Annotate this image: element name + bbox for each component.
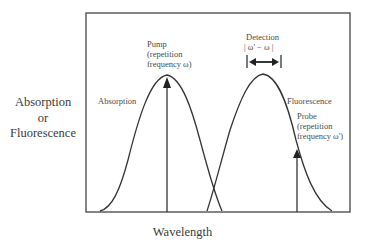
- detection-arrow-right-icon: [272, 58, 279, 66]
- absorption-label: Absorption: [98, 97, 136, 107]
- x-axis-label: Wavelength: [0, 225, 365, 239]
- fluorescence-label: Fluorescence: [287, 97, 332, 107]
- y-axis-label-line-2: or: [4, 111, 82, 127]
- probe-annotation: Probe (repetition frequency ω'): [297, 112, 343, 141]
- pump-line-3: frequency ω): [147, 60, 192, 70]
- y-axis-label-line-1: Absorption: [4, 95, 82, 111]
- fluorescence-curve: [207, 74, 332, 211]
- probe-line-3: frequency ω'): [297, 132, 343, 142]
- detection-formula: | ω' − ω |: [244, 43, 273, 53]
- pump-annotation: Pump (repetition frequency ω): [147, 40, 192, 69]
- y-axis-label: Absorption or Fluorescence: [4, 95, 82, 142]
- pump-arrow-head-icon: [163, 77, 171, 88]
- y-axis-label-line-3: Fluorescence: [4, 126, 82, 142]
- detection-arrow-left-icon: [249, 58, 256, 66]
